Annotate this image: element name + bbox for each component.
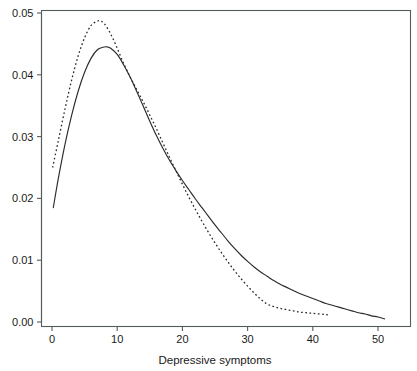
x-tick-label: 40: [307, 333, 319, 345]
figure-background: [0, 0, 417, 371]
x-tick-label: 30: [241, 333, 253, 345]
y-tick-label: 0.01: [12, 254, 33, 266]
x-tick-label: 10: [111, 333, 123, 345]
chart-canvas: 0.000.010.020.030.040.05 01020304050 Dep…: [0, 0, 417, 371]
y-tick-label: 0.04: [12, 69, 33, 81]
density-plot-figure: 0.000.010.020.030.040.05 01020304050 Dep…: [0, 0, 417, 371]
y-tick-label: 0.00: [12, 316, 33, 328]
x-axis-title: Depressive symptoms: [158, 354, 271, 366]
y-tick-label: 0.05: [12, 7, 33, 19]
x-tick-label: 50: [372, 333, 384, 345]
y-tick-label: 0.02: [12, 192, 33, 204]
x-tick-label: 0: [49, 333, 55, 345]
x-tick-label: 20: [176, 333, 188, 345]
y-tick-label: 0.03: [12, 131, 33, 143]
